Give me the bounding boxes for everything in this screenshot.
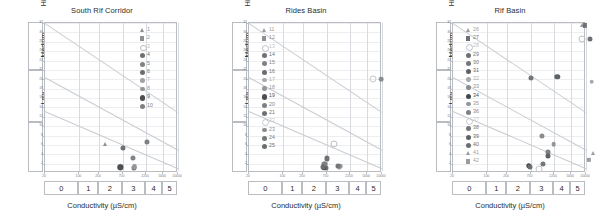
- y-axis-label: SAR: [210, 22, 222, 172]
- y-axis-tick-mark: [451, 70, 453, 71]
- legend-marker: [262, 111, 267, 116]
- conductivity-class-4: 4: [553, 181, 570, 195]
- y-axis-tick-mark: [247, 126, 249, 127]
- data-point: [330, 140, 337, 147]
- data-point-marker: [144, 140, 149, 145]
- legend-symbol-icon: [262, 78, 267, 83]
- legend-label: 11: [269, 27, 274, 32]
- y-axis-tick-mark: [451, 61, 453, 62]
- y-axis-tick-mark: [43, 117, 45, 118]
- x-axis-tick-label: 250: [503, 174, 509, 178]
- legend-label: 1: [147, 27, 150, 32]
- data-point: [554, 74, 559, 79]
- legend-label: 36: [473, 109, 479, 114]
- data-point: [551, 142, 556, 147]
- conductivity-class-2: 2: [98, 181, 122, 195]
- x-axis-tick-mark: [302, 172, 303, 174]
- data-point: [369, 76, 376, 83]
- y-axis-tick-mark: [247, 79, 249, 80]
- legend-symbol-icon: [466, 69, 471, 74]
- y-axis-tick-mark: [247, 145, 249, 146]
- conductivity-class-bar: 012345: [452, 181, 585, 195]
- legend-label: 31: [473, 68, 479, 73]
- y-axis-tick-mark: [451, 79, 453, 80]
- x-axis-tick-mark: [452, 172, 453, 174]
- legend-marker: [262, 144, 267, 149]
- conductivity-class-1: 1: [486, 181, 506, 195]
- y-axis-label: SAR: [6, 22, 18, 172]
- panel-title: Rif Basin: [408, 6, 612, 15]
- legend-marker: [466, 143, 471, 148]
- data-point-marker: [546, 154, 551, 159]
- x-axis-tick-mark: [98, 172, 99, 174]
- legend-symbol-icon: [262, 111, 267, 116]
- x-axis-label: Conductivity (µS/cm): [0, 201, 204, 210]
- legend-marker: [466, 135, 471, 140]
- legend-label: 20: [269, 102, 275, 107]
- data-point-marker: [330, 140, 337, 147]
- x-axis-tick-mark: [506, 172, 507, 174]
- x-axis-tick-mark: [381, 172, 382, 174]
- legend-symbol-icon: [140, 36, 144, 40]
- legend-symbol-icon: [140, 28, 144, 32]
- y-axis-tick-mark: [247, 117, 249, 118]
- legend-label: 26: [473, 27, 479, 32]
- legend-label: 23: [269, 127, 275, 132]
- y-axis-tick-mark: [43, 107, 45, 108]
- x-axis-tick-label: 250: [95, 174, 101, 178]
- legend-symbol-icon: [466, 28, 470, 32]
- y-axis-tick-mark: [451, 126, 453, 127]
- legend-marker: [466, 44, 473, 51]
- data-point-marker: [325, 156, 330, 161]
- legend-symbol-icon: [466, 151, 470, 155]
- legend-symbol-icon: [262, 103, 267, 108]
- x-axis-tick-label: 750: [119, 174, 125, 178]
- conductivity-class-4: 4: [145, 181, 162, 195]
- legend-label: 37: [473, 117, 479, 122]
- legend-marker: [262, 70, 267, 75]
- legend-label: 7: [147, 77, 150, 82]
- gridline-horizontal: [249, 23, 380, 24]
- legend-marker: [466, 94, 471, 99]
- y-axis-tick-mark: [247, 136, 249, 137]
- data-point: [130, 155, 135, 160]
- legend-symbol-icon: [262, 128, 267, 133]
- legend-marker: [466, 159, 470, 163]
- x-axis-tick-label: 20: [246, 174, 250, 178]
- data-point-marker: [591, 151, 595, 155]
- data-point: [528, 76, 533, 81]
- data-point: [539, 134, 544, 139]
- x-axis-tick-label: 2250: [141, 174, 149, 178]
- legend-label: 40: [473, 142, 479, 147]
- x-axis-tick-mark: [282, 172, 283, 174]
- data-point: [103, 142, 107, 146]
- gridline-horizontal: [45, 145, 176, 146]
- data-point: [132, 165, 137, 170]
- panel-rif-basin: Rif Basin SAR High Medium Low 3230282624…: [408, 0, 612, 222]
- x-axis-tick-mark: [530, 172, 531, 174]
- x-axis-tick-label: 10000: [580, 174, 589, 178]
- x-axis-tick-mark: [553, 172, 554, 174]
- legend-marker: [140, 62, 145, 67]
- legend-label: 17: [269, 77, 275, 82]
- legend-marker: [466, 61, 471, 66]
- y-axis-tick-mark: [247, 107, 249, 108]
- gridline-horizontal: [45, 126, 176, 127]
- x-axis-tick-mark: [78, 172, 79, 174]
- conductivity-class-4: 4: [349, 181, 366, 195]
- conductivity-class-bar: 012345: [248, 181, 381, 195]
- legend-symbol-icon: [466, 126, 471, 131]
- legend-label: 5: [147, 61, 150, 66]
- legend-marker: [466, 102, 471, 107]
- legend-marker: [466, 53, 471, 58]
- data-point: [583, 23, 587, 27]
- x-axis-tick-mark: [44, 172, 45, 174]
- x-axis-tick-label: 5000: [362, 174, 370, 178]
- legend-marker: [262, 136, 267, 141]
- x-axis-tick-mark: [486, 172, 487, 174]
- x-axis-tick-mark: [366, 172, 367, 174]
- y-axis-label: SAR: [414, 22, 426, 172]
- legend-symbol-icon: [140, 87, 145, 92]
- data-point-marker: [321, 164, 326, 169]
- legend-symbol-icon: [262, 119, 269, 126]
